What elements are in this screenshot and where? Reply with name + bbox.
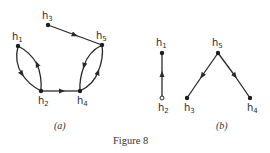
label-a-h1: h1 (12, 32, 23, 44)
edge-h3-h5 (48, 25, 75, 35)
node-a-h1 (16, 44, 20, 48)
panel-b-edges (162, 53, 250, 98)
edge-b-h5-h3 (202, 53, 218, 76)
panel-a-label: (a) (54, 121, 66, 131)
label-a-h4: h4 (77, 96, 88, 108)
node-b-h2 (160, 96, 164, 100)
panel-a-edges (17, 25, 103, 91)
node-b-h4 (248, 96, 252, 100)
label-a-h2: h2 (38, 96, 49, 108)
label-b-h3: h3 (184, 103, 195, 115)
node-a-h4 (78, 89, 82, 93)
label-a-h3: h3 (42, 11, 53, 23)
node-a-h2 (39, 89, 43, 93)
node-b-h5 (216, 51, 220, 55)
edge-h5-h4 (84, 45, 102, 66)
label-b-h4: h4 (247, 103, 258, 115)
edge-h4-h5 (80, 72, 98, 91)
edge-h1-h2 (17, 46, 22, 74)
edge-b-h5-h4 (218, 53, 235, 76)
node-a-h5 (100, 43, 104, 47)
figure-caption: Figure 8 (113, 136, 148, 147)
label-a-h5: h5 (96, 31, 107, 43)
node-b-h1 (160, 51, 164, 55)
node-b-h3 (185, 96, 189, 100)
label-b-h2: h2 (158, 103, 169, 115)
figure-8: h3 h5 h1 h2 h4 (a) h1 h2 h5 h3 h4 (b) Fi… (0, 0, 270, 153)
graph-canvas (0, 0, 270, 153)
label-b-h1: h1 (156, 38, 167, 50)
edge-h2-h1 (37, 64, 41, 91)
panel-b-label: (b) (216, 121, 228, 131)
label-b-h5: h5 (212, 38, 223, 50)
node-a-h3 (46, 23, 50, 27)
